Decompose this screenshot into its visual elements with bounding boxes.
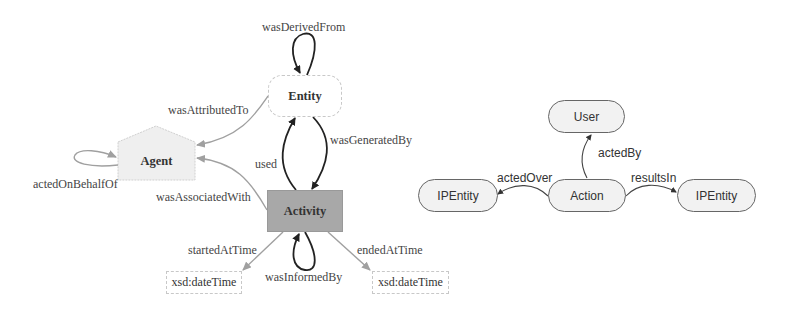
- diagram-canvas: wasDerivedFrom Entity wasAttributedTo Ag…: [0, 0, 785, 312]
- edge-acted-over: [498, 186, 548, 196]
- edge-was-derived-from: [293, 33, 315, 75]
- ip-entity-left-label: IPEntity: [437, 189, 478, 203]
- action-node[interactable]: Action: [548, 179, 626, 212]
- entity-node[interactable]: Entity: [268, 75, 342, 117]
- edge-used: [283, 118, 296, 190]
- datetime-end-label: xsd:dateTime: [378, 275, 443, 290]
- user-node-label: User: [574, 110, 599, 124]
- label-was-derived-from: wasDerivedFrom: [262, 21, 345, 33]
- entity-node-label: Entity: [288, 89, 321, 104]
- user-node[interactable]: User: [548, 100, 625, 133]
- label-was-attributed-to: wasAttributedTo: [168, 104, 248, 116]
- datetime-start-node[interactable]: xsd:dateTime: [166, 271, 242, 294]
- edge-was-generated-by: [312, 117, 327, 189]
- activity-node[interactable]: Activity: [267, 190, 343, 232]
- label-was-associated-with: wasAssociatedWith: [156, 191, 251, 203]
- agent-node[interactable]: Agent: [118, 142, 195, 180]
- edge-was-informed-by: [293, 232, 314, 270]
- datetime-start-label: xsd:dateTime: [172, 275, 237, 290]
- label-acted-on-behalf-of: actedOnBehalfOf: [33, 178, 118, 190]
- label-was-generated-by: wasGeneratedBy: [330, 134, 412, 146]
- label-ended-at-time: endedAtTime: [357, 244, 423, 256]
- label-results-in: resultsIn: [631, 172, 676, 184]
- agent-node-label: Agent: [141, 154, 173, 169]
- label-acted-by: actedBy: [598, 147, 641, 159]
- action-node-label: Action: [570, 189, 603, 203]
- datetime-end-node[interactable]: xsd:dateTime: [372, 271, 449, 294]
- ip-entity-left-node[interactable]: IPEntity: [418, 179, 498, 212]
- label-acted-over: actedOver: [497, 172, 552, 184]
- label-used: used: [255, 158, 277, 170]
- label-started-at-time: startedAtTime: [188, 244, 257, 256]
- label-was-informed-by: wasInformedBy: [265, 271, 342, 283]
- activity-node-label: Activity: [284, 204, 326, 219]
- ip-entity-right-label: IPEntity: [696, 189, 737, 203]
- edge-results-in: [626, 185, 676, 196]
- edge-acted-on-behalf-of: [74, 151, 118, 166]
- edge-acted-by: [582, 135, 591, 178]
- ip-entity-right-node[interactable]: IPEntity: [677, 179, 756, 212]
